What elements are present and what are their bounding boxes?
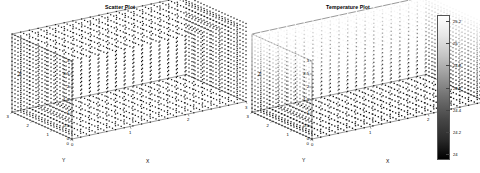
colorbar-tick-label: 25 xyxy=(453,41,458,46)
right-x-tick: 1 xyxy=(369,130,371,135)
left-z-tick: 1 xyxy=(56,110,69,115)
scatter-y-axis-label: Y xyxy=(62,157,65,163)
left-y-tick: 3 xyxy=(7,114,9,119)
left-y-tick: 1 xyxy=(47,132,49,137)
colorbar-tick-label: 24 xyxy=(453,152,458,157)
colorbar-tick-mark xyxy=(446,132,450,133)
right-x-tick: 0 xyxy=(311,142,313,147)
colorbar-tick-mark xyxy=(446,154,450,155)
colorbar-tick-mark xyxy=(446,43,450,44)
left-z-tick: 1.5 xyxy=(56,97,69,102)
left-y-tick: 2 xyxy=(27,123,29,128)
colorbar-tick-label: 25.2 xyxy=(453,19,461,24)
scatter-x-axis-label: X xyxy=(146,158,149,164)
scatter-plot-panel: Scatter Plot Z X Y 00.511.522.53 0123 01… xyxy=(0,0,240,173)
figure-canvas: Scatter Plot Z X Y 00.511.522.53 0123 01… xyxy=(0,0,480,173)
right-z-tick: 3 xyxy=(296,58,309,63)
colorbar-tick-label: 24.4 xyxy=(453,107,461,112)
temperature-colorbar: 25.22524.824.624.424.224 xyxy=(437,15,450,160)
right-y-tick: 1 xyxy=(287,132,289,137)
scatter-plot-axes xyxy=(0,0,240,173)
left-y-tick: 0 xyxy=(67,141,69,146)
right-x-tick: 2 xyxy=(427,117,429,122)
temperature-z-axis-label: Z xyxy=(258,71,261,77)
colorbar-tick-label: 24.2 xyxy=(453,129,461,134)
right-y-tick: 3 xyxy=(247,114,249,119)
left-x-tick: 0 xyxy=(71,142,73,147)
temperature-y-axis-label: Y xyxy=(302,157,305,163)
colorbar-tick-label: 24.6 xyxy=(453,85,461,90)
left-z-tick: 2 xyxy=(56,84,69,89)
scatter-z-axis-label: Z xyxy=(18,71,21,77)
left-z-tick: 3 xyxy=(56,58,69,63)
colorbar-tick-mark xyxy=(446,88,450,89)
right-y-tick: 2 xyxy=(267,123,269,128)
temperature-x-axis-label: X xyxy=(386,158,389,164)
colorbar-tick-mark xyxy=(446,21,450,22)
colorbar-tick-mark xyxy=(446,110,450,111)
left-z-tick: 0.5 xyxy=(56,123,69,128)
left-x-tick: 2 xyxy=(187,117,189,122)
right-z-tick: 1 xyxy=(296,110,309,115)
colorbar-tick-mark xyxy=(446,65,450,66)
right-z-tick: 2 xyxy=(296,84,309,89)
right-z-tick: 2.5 xyxy=(296,71,309,76)
right-z-tick: 1.5 xyxy=(296,97,309,102)
left-x-tick: 1 xyxy=(129,130,131,135)
colorbar-tick-label: 24.8 xyxy=(453,63,461,68)
right-y-tick: 0 xyxy=(307,141,309,146)
left-z-tick: 2.5 xyxy=(56,71,69,76)
right-z-tick: 0.5 xyxy=(296,123,309,128)
